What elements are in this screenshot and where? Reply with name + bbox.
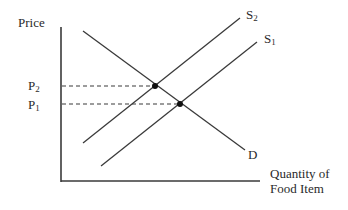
equilibrium-point-2 — [152, 83, 158, 89]
s2-label: S2 — [246, 8, 258, 25]
p2-label-sub: 2 — [35, 84, 40, 94]
s2-label-sub: 2 — [253, 13, 258, 23]
p1-label: P1 — [28, 98, 40, 115]
demand-curve — [83, 31, 245, 150]
p2-label: P2 — [28, 79, 40, 96]
x-axis-label-line2: Food Item — [270, 182, 324, 196]
supply-curve-2 — [83, 18, 240, 143]
y-axis-label: Price — [18, 16, 45, 30]
demand-label: D — [248, 148, 257, 162]
s1-label: S1 — [264, 32, 276, 49]
x-axis-label-line1: Quantity of — [270, 167, 330, 181]
p1-label-sub: 1 — [35, 103, 40, 113]
equilibrium-point-1 — [177, 101, 183, 107]
s1-label-sub: 1 — [271, 37, 276, 47]
